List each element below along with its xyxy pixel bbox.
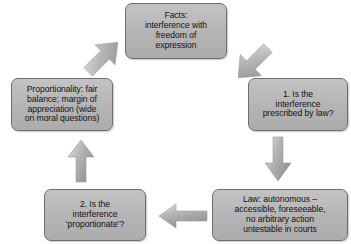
diagram-canvas: Facts:interference withfreedom ofexpress…: [0, 0, 351, 244]
proportionality-node-text: Proportionality: fairbalance; margin ofa…: [16, 85, 108, 125]
step2-node-text: 2. Is theinterference‘proportionate’?: [49, 200, 141, 230]
arrow-proportionality-to-facts: [80, 34, 126, 80]
step1-node-text: 1. Is theinterferenceprescribed by law?: [253, 90, 343, 120]
step1-node: 1. Is theinterferenceprescribed by law?: [248, 78, 348, 131]
proportionality-node: Proportionality: fairbalance; margin ofa…: [11, 78, 113, 131]
arrow-law-to-step2: [158, 202, 208, 230]
arrow-step1-to-law: [264, 136, 292, 182]
arrow-step2-to-proportionality: [67, 139, 95, 183]
law-node-text: Law: autonomous –accessible, foreseeable…: [217, 195, 343, 235]
step2-node: 2. Is theinterference‘proportionate’?: [44, 189, 146, 241]
facts-node: Facts:interference withfreedom ofexpress…: [125, 3, 227, 59]
law-node: Law: autonomous –accessible, foreseeable…: [212, 189, 348, 241]
facts-node-text: Facts:interference withfreedom ofexpress…: [130, 11, 222, 51]
